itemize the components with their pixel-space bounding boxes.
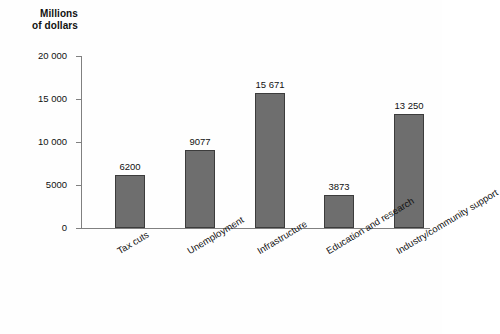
y-tick-mark xyxy=(76,185,81,186)
bar-value-label: 6200 xyxy=(100,162,160,172)
y-tick-label-text: 20 000 xyxy=(38,51,67,61)
y-axis-title: Millions of dollars xyxy=(6,8,78,32)
bar-value-label: 13 250 xyxy=(379,101,439,111)
y-tick-label: 10 000 xyxy=(9,137,67,147)
y-tick-mark xyxy=(76,56,81,57)
bar-value-label: 3873 xyxy=(309,182,369,192)
bar[interactable] xyxy=(255,93,285,228)
x-axis-line xyxy=(81,228,430,229)
category-label: Tax cuts xyxy=(115,229,151,256)
y-tick-label-text: 5000 xyxy=(46,180,67,190)
bar[interactable] xyxy=(115,175,145,228)
y-tick-label: 20 000 xyxy=(9,51,67,61)
y-tick-label: 5000 xyxy=(9,180,67,190)
y-tick-label-text: 10 000 xyxy=(38,137,67,147)
bar-value-label: 9077 xyxy=(170,137,230,147)
y-tick-label: 0 xyxy=(9,223,67,233)
y-tick-mark xyxy=(76,228,81,229)
y-tick-mark xyxy=(76,142,81,143)
bar[interactable] xyxy=(185,150,215,228)
plot-area: 0500010 00015 00020 000 6200907715 67138… xyxy=(81,56,430,228)
bar-value-label: 15 671 xyxy=(240,80,300,90)
y-tick-label-text: 0 xyxy=(62,223,67,233)
y-tick-label: 15 000 xyxy=(9,94,67,104)
y-tick-label-text: 15 000 xyxy=(38,94,67,104)
bar[interactable] xyxy=(324,195,354,228)
y-tick-mark xyxy=(76,99,81,100)
y-axis-line xyxy=(81,56,82,229)
